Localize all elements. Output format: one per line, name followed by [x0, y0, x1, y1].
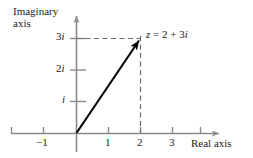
imaginary-axis-label-line1: Imaginary	[13, 5, 58, 17]
tick-label-3i-unit: i	[62, 30, 65, 42]
complex-plane-figure: Imaginary axis Real axis 3i 2i i −1 1 2 …	[0, 0, 253, 158]
tick-label-3-text: 3	[169, 136, 175, 148]
tick-label-1-text: 1	[105, 136, 111, 148]
tick-label-i-unit: i	[62, 93, 65, 105]
tick-label-3i: 3i	[56, 31, 65, 43]
imaginary-axis-label-line2: axis	[13, 18, 58, 30]
tick-label-i: i	[62, 94, 65, 106]
tick-label-2: 2	[137, 137, 143, 149]
tick-label-2-text: 2	[137, 136, 143, 148]
point-label-plus: +	[168, 28, 180, 40]
imaginary-axis-ticks	[70, 39, 86, 102]
real-axis-label: Real axis	[191, 138, 232, 150]
tick-label-2i-unit: i	[62, 62, 65, 74]
vector-z	[77, 41, 140, 134]
tick-label-minus-1: −1	[36, 137, 48, 149]
tick-label-3: 3	[169, 137, 175, 149]
point-label-equals: =	[150, 28, 162, 40]
tick-label-minus-1-text: −1	[36, 136, 48, 148]
point-label-imag-unit: i	[185, 28, 188, 40]
imaginary-axis-label: Imaginary axis	[13, 6, 58, 30]
point-label-z: z = 2 + 3i	[146, 29, 188, 41]
tick-label-2i: 2i	[56, 63, 65, 75]
tick-label-1: 1	[105, 137, 111, 149]
